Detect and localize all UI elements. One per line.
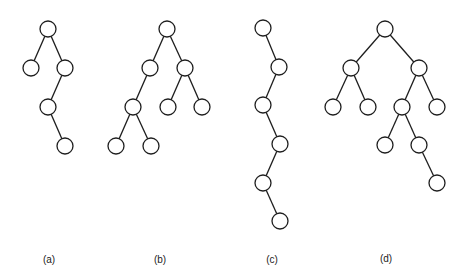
tree-node	[271, 59, 287, 75]
tree-b	[108, 21, 210, 154]
binary-trees-diagram	[0, 0, 471, 277]
tree-node	[325, 99, 341, 115]
tree-node	[411, 137, 427, 153]
tree-node	[255, 20, 271, 36]
tree-node	[143, 138, 159, 154]
tree-node	[57, 138, 73, 154]
tree-node	[159, 21, 175, 37]
tree-node	[377, 137, 393, 153]
tree-node	[194, 99, 210, 115]
tree-node	[272, 213, 288, 229]
tree-node	[394, 99, 410, 115]
tree-node	[343, 60, 359, 76]
tree-node	[125, 99, 141, 115]
tree-node	[411, 60, 427, 76]
tree-a	[23, 21, 73, 154]
tree-d-caption: (d)	[380, 253, 392, 264]
tree-c	[255, 20, 288, 229]
tree-d	[325, 21, 445, 191]
tree-node	[142, 60, 158, 76]
tree-node	[429, 175, 445, 191]
tree-b-caption: (b)	[154, 254, 166, 265]
tree-node	[160, 99, 176, 115]
tree-node	[108, 138, 124, 154]
tree-a-caption: (a)	[43, 254, 55, 265]
tree-node	[40, 21, 56, 37]
tree-node	[23, 60, 39, 76]
tree-node	[255, 175, 271, 191]
tree-node	[255, 97, 271, 113]
tree-node	[360, 99, 376, 115]
tree-c-caption: (c)	[266, 254, 278, 265]
tree-node	[377, 21, 393, 37]
tree-node	[429, 99, 445, 115]
tree-node	[57, 60, 73, 76]
tree-node	[40, 99, 56, 115]
tree-node	[272, 136, 288, 152]
tree-node	[177, 60, 193, 76]
